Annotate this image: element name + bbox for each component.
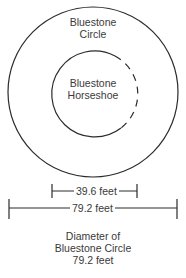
caption: Diameter of Bluestone Circle 79.2 feet — [33, 230, 153, 266]
bluestone-circle-label: Bluestone Circle — [53, 16, 133, 40]
caption-line: 79.2 feet — [33, 254, 153, 266]
caption-line: Diameter of — [33, 230, 153, 242]
label-line: Bluestone — [53, 16, 133, 28]
label-line: Horseshoe — [53, 89, 133, 101]
label-line: Circle — [53, 28, 133, 40]
dimension-label-inner: 39.6 feet — [74, 185, 119, 197]
caption-line: Bluestone Circle — [33, 242, 153, 254]
dimension-label-outer: 79.2 feet — [70, 202, 115, 214]
label-line: Bluestone — [53, 77, 133, 89]
bluestone-horseshoe-label: Bluestone Horseshoe — [53, 77, 133, 101]
